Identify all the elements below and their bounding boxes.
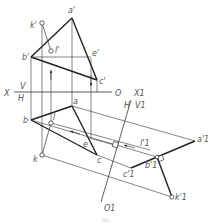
o-label: O — [115, 89, 121, 98]
label-b-prime: b' — [22, 53, 29, 62]
x1-axis-label: X1 — [133, 89, 145, 98]
projection-diagram: X V H O X1 H V1 O1 — [0, 0, 210, 224]
label-c: c — [97, 156, 102, 165]
h-label: H — [18, 94, 24, 103]
label-a: a — [73, 97, 78, 106]
label-k1-prime: k'1 — [175, 193, 187, 202]
point-b1 — [155, 155, 159, 159]
label-c1-prime: c'1 — [123, 170, 135, 179]
label-l-prime: l' — [55, 46, 59, 55]
label-e-prime: e' — [92, 49, 99, 58]
frontal-triangle — [31, 18, 97, 80]
h-label-aux: H — [124, 101, 130, 110]
label-a-prime: a' — [68, 6, 75, 15]
aux-edge — [131, 141, 195, 197]
x1-axis: X1 H V1 O1 — [101, 89, 146, 213]
arrows — [51, 70, 91, 86]
figure-caption: (b) — [102, 217, 109, 223]
label-e: e — [83, 140, 88, 149]
point-k-prime — [40, 21, 44, 25]
label-k: k — [33, 155, 38, 164]
label-c-prime: c' — [99, 77, 106, 86]
v1-label: V1 — [135, 101, 146, 110]
x-axis-label: X — [3, 89, 10, 98]
o1-label: O1 — [104, 204, 115, 213]
label-b1-prime: b'1 — [145, 161, 157, 170]
point-k1 — [170, 195, 174, 199]
v-label: V — [20, 82, 26, 91]
label-b: b — [23, 116, 28, 125]
label-l: l — [53, 113, 56, 122]
point-l-prime — [49, 49, 53, 53]
label-l1-prime: l'1 — [140, 139, 150, 148]
label-a1-prime: a'1 — [197, 135, 209, 144]
right-angle-marker-1 — [112, 142, 118, 148]
point-k — [40, 153, 44, 157]
label-k-prime: k' — [30, 21, 37, 30]
line-k-l-frontal — [42, 23, 51, 51]
arrow-aux — [70, 131, 80, 134]
